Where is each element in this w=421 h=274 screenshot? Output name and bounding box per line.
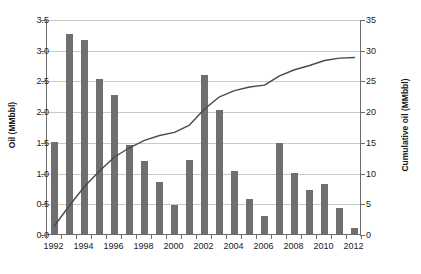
bar-2012 — [351, 228, 359, 234]
y-axis-left-tick-mark — [41, 112, 46, 113]
x-axis-tick-mark — [196, 235, 197, 239]
y-axis-right-tick-mark — [360, 81, 365, 82]
x-axis-tick-mark — [241, 235, 242, 239]
y-axis-right-tick-mark — [360, 174, 365, 175]
bar-1996 — [111, 95, 119, 234]
bar-2006 — [261, 216, 269, 234]
bar-2010 — [321, 184, 329, 234]
x-axis-tick-mark — [361, 235, 362, 239]
x-axis-tick-mark — [346, 235, 347, 239]
y-axis-right-tick-mark — [360, 20, 365, 21]
bar-2009 — [306, 190, 314, 234]
x-axis-tick-mark — [106, 235, 107, 239]
bar-series-oil — [47, 20, 360, 234]
bar-2000 — [171, 205, 179, 234]
bar-2001 — [186, 160, 194, 234]
x-axis-tick-mark — [271, 235, 272, 239]
x-axis-tick-mark — [181, 235, 182, 239]
x-axis-tick-mark — [316, 235, 317, 239]
x-axis-tick-mark — [136, 235, 137, 239]
x-axis-tick-mark — [226, 235, 227, 239]
y-axis-right-tick-mark — [360, 204, 365, 205]
x-axis-tick-mark — [256, 235, 257, 239]
x-axis-tick-mark — [76, 235, 77, 239]
x-axis-tick-mark — [211, 235, 212, 239]
bar-1993 — [66, 34, 74, 234]
x-axis-tick-mark — [286, 235, 287, 239]
bar-1992 — [51, 142, 59, 234]
y-axis-left-tick-mark — [41, 143, 46, 144]
bar-2005 — [246, 199, 254, 234]
bar-1998 — [141, 161, 149, 234]
bar-1995 — [96, 79, 104, 234]
y-axis-right-tick-label: 30 — [366, 46, 390, 56]
bar-2007 — [276, 143, 284, 234]
x-axis-tick-mark — [331, 235, 332, 239]
bar-2003 — [216, 110, 224, 234]
bar-1994 — [81, 40, 89, 234]
y-axis-left-tick-mark — [41, 174, 46, 175]
y-axis-right-tick-mark — [360, 51, 365, 52]
x-axis-tick-mark — [121, 235, 122, 239]
x-axis-tick-label-2012: 2012 — [334, 241, 374, 251]
y-axis-left-title: Oil (MMbbl) — [7, 77, 17, 173]
bar-2004 — [231, 171, 239, 234]
y-axis-right-tick-label: 35 — [366, 15, 390, 25]
x-axis-tick-mark — [301, 235, 302, 239]
y-axis-right-tick-label: 5 — [366, 199, 390, 209]
x-axis-tick-mark — [46, 235, 47, 239]
y-axis-right-title: Cumulative oil (MMbbl) — [400, 65, 410, 185]
y-axis-right-tick-label: 20 — [366, 107, 390, 117]
oil-production-chart: Oil (MMbbl) Cumulative oil (MMbbl) 0.00.… — [0, 0, 421, 274]
y-axis-right-tick-label: 25 — [366, 76, 390, 86]
x-axis-tick-mark — [91, 235, 92, 239]
bar-1999 — [156, 182, 164, 234]
bar-2011 — [336, 208, 344, 234]
y-axis-right-tick-label: 15 — [366, 138, 390, 148]
bar-2008 — [291, 173, 299, 234]
y-axis-left-tick-mark — [41, 51, 46, 52]
plot-area — [46, 20, 361, 235]
bar-2002 — [201, 75, 209, 234]
x-axis-tick-mark — [151, 235, 152, 239]
y-axis-right-tick-label: 0 — [366, 230, 390, 240]
x-axis-tick-mark — [61, 235, 62, 239]
y-axis-right-tick-mark — [360, 143, 365, 144]
y-axis-right-tick-mark — [360, 112, 365, 113]
y-axis-left-tick-mark — [41, 204, 46, 205]
y-axis-left-tick-mark — [41, 20, 46, 21]
y-axis-left-tick-mark — [41, 81, 46, 82]
y-axis-right-tick-label: 10 — [366, 169, 390, 179]
bar-1997 — [126, 145, 134, 234]
x-axis-tick-mark — [166, 235, 167, 239]
